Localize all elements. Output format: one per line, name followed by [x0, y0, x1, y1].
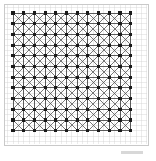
lattice-node — [76, 86, 79, 89]
lattice-node — [22, 65, 25, 68]
lattice-node — [118, 22, 121, 25]
lattice-node — [54, 97, 57, 100]
lattice-node — [86, 129, 89, 132]
lattice-node — [108, 33, 111, 36]
lattice-node — [65, 129, 68, 132]
lattice-node — [76, 65, 79, 68]
lattice-node — [118, 118, 121, 121]
lattice-node — [65, 22, 68, 25]
lattice-node — [22, 33, 25, 36]
lattice-node — [44, 86, 47, 89]
figure-root — [0, 0, 156, 161]
lattice-node — [118, 33, 121, 36]
lattice-node — [33, 108, 36, 111]
lattice-node — [44, 54, 47, 57]
lattice-node — [86, 76, 89, 79]
lattice-node — [86, 22, 89, 25]
lattice-node — [22, 108, 25, 111]
lattice-node — [33, 33, 36, 36]
lattice-node — [54, 54, 57, 57]
lattice-node — [86, 44, 89, 47]
lattice-node — [76, 11, 79, 14]
lattice-node — [65, 108, 68, 111]
lattice-node — [22, 44, 25, 47]
lattice-node — [22, 118, 25, 121]
lattice-node — [129, 22, 132, 25]
lattice-node — [11, 54, 14, 57]
lattice-node — [11, 65, 14, 68]
lattice-node — [118, 11, 121, 14]
lattice-node — [97, 33, 100, 36]
lattice-node — [22, 86, 25, 89]
lattice-node — [86, 65, 89, 68]
lattice-node — [76, 22, 79, 25]
lattice-node — [108, 54, 111, 57]
lattice-node — [129, 33, 132, 36]
lattice-node — [108, 76, 111, 79]
lattice-node — [54, 76, 57, 79]
lattice-node — [86, 11, 89, 14]
lattice-node — [129, 54, 132, 57]
lattice-node — [33, 22, 36, 25]
lattice-node — [33, 11, 36, 14]
lattice-node — [22, 22, 25, 25]
lattice-node — [108, 118, 111, 121]
lattice-node — [108, 108, 111, 111]
lattice-node — [11, 129, 14, 132]
lattice-node — [11, 86, 14, 89]
lattice-node — [54, 86, 57, 89]
lattice-node — [86, 86, 89, 89]
lattice-node — [129, 76, 132, 79]
lattice-node — [44, 44, 47, 47]
lattice-node — [22, 11, 25, 14]
lattice-node — [97, 108, 100, 111]
lattice-node — [65, 11, 68, 14]
lattice-node — [11, 76, 14, 79]
lattice-node — [97, 129, 100, 132]
lattice-node — [118, 54, 121, 57]
lattice-node — [108, 65, 111, 68]
lattice-node — [65, 118, 68, 121]
lattice-node — [76, 129, 79, 132]
lattice-node — [97, 76, 100, 79]
lattice-node — [86, 118, 89, 121]
lattice-node — [118, 97, 121, 100]
lattice-node — [97, 22, 100, 25]
lattice-node — [33, 86, 36, 89]
lattice-node — [129, 65, 132, 68]
lattice-node — [44, 118, 47, 121]
lattice-node — [129, 86, 132, 89]
lattice-node — [22, 76, 25, 79]
lattice-node — [44, 33, 47, 36]
lattice-node — [129, 11, 132, 14]
lattice-node — [65, 76, 68, 79]
lattice-node — [108, 97, 111, 100]
lattice-node — [108, 129, 111, 132]
lattice-node — [76, 76, 79, 79]
lattice-node — [129, 108, 132, 111]
lattice-node — [22, 97, 25, 100]
lattice-node — [54, 129, 57, 132]
lattice-node — [129, 97, 132, 100]
lattice-node — [76, 118, 79, 121]
lattice-node — [11, 11, 14, 14]
lattice-node — [97, 118, 100, 121]
lattice-node — [54, 65, 57, 68]
lattice-node — [118, 86, 121, 89]
lattice-node — [76, 108, 79, 111]
lattice-node — [65, 33, 68, 36]
lattice-node — [54, 11, 57, 14]
lattice-node — [65, 65, 68, 68]
lattice-node — [118, 44, 121, 47]
lattice-node — [76, 33, 79, 36]
lattice-node — [86, 108, 89, 111]
lattice-node — [118, 76, 121, 79]
lattice-node — [118, 129, 121, 132]
caption-mark — [121, 151, 143, 154]
lattice-node — [129, 129, 132, 132]
lattice-node — [108, 22, 111, 25]
lattice-node — [11, 44, 14, 47]
lattice-node — [33, 118, 36, 121]
lattice-node — [65, 54, 68, 57]
lattice-node — [97, 65, 100, 68]
